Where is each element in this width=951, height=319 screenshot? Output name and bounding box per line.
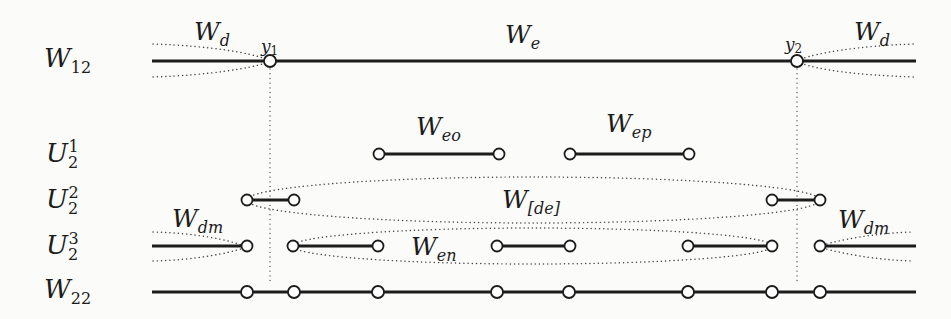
label-y2-sub: 2 [795,42,803,56]
y2-marker [791,55,803,67]
label-wd-right: Wd [854,17,890,50]
endpoint-marker [289,195,300,206]
label-wde-sub: [de] [528,199,561,218]
endpoint-marker [682,286,694,298]
label-wdm-left-sub: dm [198,218,223,237]
row-label-w22-sub: 22 [71,289,91,308]
label-wdm-right-sub: dm [864,219,889,238]
label-weo-sub: eo [442,126,461,145]
row-label-u21-sup: 1 [69,137,79,156]
label-wd-left-sub: d [220,31,230,50]
row-label-u22: U22 [46,183,79,218]
row-label-u23-base: U [46,230,69,260]
row-label-w12: W12 [44,43,91,77]
label-wen-base: W [411,232,439,261]
endpoint-marker [491,286,503,298]
endpoint-marker [374,149,385,160]
endpoint-marker [288,241,299,252]
wd-left-arc-top [153,44,266,59]
label-y2: y2 [784,34,802,56]
label-weo-base: W [416,112,444,141]
row-label-u22-sup: 2 [69,183,79,202]
label-wen: Wen [411,232,456,265]
label-wdm-left: Wdm [172,204,223,237]
row-label-w22: W22 [44,274,91,308]
wd-right-arc-top [801,44,914,59]
label-y1-base: y [260,36,271,56]
row-label-u22-base: U [46,184,69,214]
endpoint-marker [563,286,575,298]
row-label-u23-sup: 3 [69,229,79,248]
label-wen-sub: en [437,246,457,265]
endpoint-marker [494,149,505,160]
endpoint-marker [683,241,694,252]
label-wep: Wep [606,109,651,142]
label-y1: y1 [260,36,278,58]
label-y2-base: y [784,34,795,54]
wd-left-arc-bottom [153,63,266,77]
label-y1-sub: 1 [271,44,279,58]
row-label-w12-sub: 12 [71,58,91,77]
row-label-u21-base: U [46,138,69,168]
label-weo: Weo [416,112,461,145]
endpoint-marker [766,286,778,298]
row-label-u21: U21 [46,137,79,172]
wdm-right-arc-bottom [823,248,914,261]
label-wep-base: W [606,109,634,138]
dotted-guides [153,44,914,284]
endpoint-marker [684,149,695,160]
row-label-w12-base: W [44,43,73,73]
endpoint-marker [767,195,778,206]
label-wep-sub: ep [632,123,652,142]
row-labels: W12 U21 U22 U23 W22 [44,43,91,308]
label-wdm-right: Wdm [838,205,889,238]
figure-canvas: W12 U21 U22 U23 W22 Wd We Wd Weo Wep W[d… [0,0,951,319]
endpoint-marker [565,149,576,160]
endpoint-marker [372,286,384,298]
endpoint-marker [242,195,253,206]
wdm-left-arc-bottom [153,248,244,261]
label-we-sub: e [531,34,540,53]
label-wd-left: Wd [194,17,230,50]
endpoint-marker [241,286,253,298]
label-wdm-right-base: W [838,205,866,234]
label-wd-right-base: W [854,17,882,46]
endpoint-marker [288,286,300,298]
endpoint-marker [815,195,826,206]
endpoint-markers [241,55,826,298]
row-label-w22-base: W [44,274,73,304]
label-we-base: W [505,20,533,49]
endpoint-marker [242,241,253,252]
endpoint-marker [814,286,826,298]
endpoint-marker [815,241,826,252]
label-wd-right-sub: d [880,31,890,50]
label-we: We [505,20,540,53]
endpoint-marker [373,241,384,252]
wd-right-arc-bottom [801,63,914,77]
label-wde: W[de] [502,185,561,218]
endpoint-marker [767,241,778,252]
label-wdm-left-base: W [172,204,200,233]
label-wde-base: W [502,185,530,214]
word-labels: Wd We Wd Weo Wep W[de] Wdm Wen Wdm [172,17,890,265]
endpoint-marker [565,241,576,252]
endpoint-marker [492,241,503,252]
row-label-u23: U23 [46,229,79,264]
label-wd-left-base: W [194,17,222,46]
